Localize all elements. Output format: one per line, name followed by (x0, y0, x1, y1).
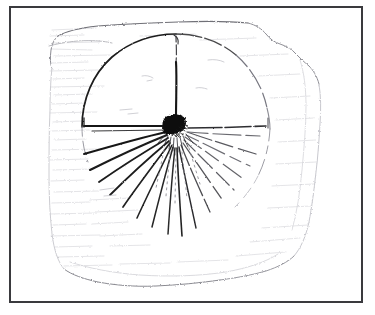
artifact-line-drawing (0, 0, 375, 315)
figure-image: archaeological artifact fragment with in… (0, 0, 375, 315)
page-background (0, 0, 375, 315)
